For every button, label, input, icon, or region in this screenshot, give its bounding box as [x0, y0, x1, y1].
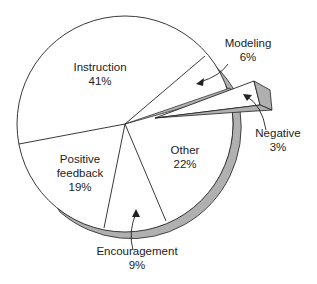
label-name: Positive	[50, 152, 110, 166]
label-pct: 41%	[70, 74, 130, 88]
label-pct: 19%	[50, 180, 110, 194]
label-name: Other	[160, 143, 210, 157]
label-pct: 9%	[92, 258, 182, 272]
label-modeling: Modeling 6%	[218, 36, 278, 64]
label-name-2: feedback	[50, 166, 110, 180]
label-encouragement: Encouragement 9%	[92, 244, 182, 272]
label-other: Other 22%	[160, 143, 210, 171]
label-pct: 3%	[248, 140, 308, 154]
label-name: Encouragement	[92, 244, 182, 258]
label-name: Modeling	[218, 36, 278, 50]
label-pct: 6%	[218, 50, 278, 64]
label-pct: 22%	[160, 157, 210, 171]
label-positive-feedback: Positive feedback 19%	[50, 152, 110, 194]
label-instruction: Instruction 41%	[70, 60, 130, 88]
label-name: Negative	[248, 126, 308, 140]
label-name: Instruction	[70, 60, 130, 74]
label-negative: Negative 3%	[248, 126, 308, 154]
